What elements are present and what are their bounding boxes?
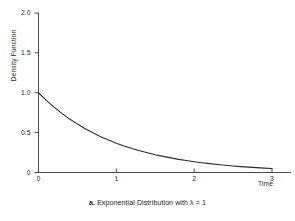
y-axis-tick-label: 2.0 [9, 9, 31, 16]
y-axis-tick-label: 1.5 [9, 49, 31, 56]
figure-caption-text: Exponential Distribution with λ = 1 [97, 199, 206, 206]
x-axis-tick-label: 2 [187, 175, 201, 182]
y-axis-tick-label: 0 [9, 169, 31, 176]
figure-caption-marker: a. [89, 199, 95, 206]
chart-plot-area: Density Function Time 00.51.01.52.0 0123 [0, 0, 295, 196]
x-axis-tick-label: 1 [109, 175, 123, 182]
figure-exponential-distribution: Density Function Time 00.51.01.52.0 0123… [0, 0, 295, 221]
x-axis-tick-label: 3 [265, 175, 279, 182]
chart-svg [0, 0, 295, 196]
x-axis-tick-label: 0 [32, 175, 46, 182]
y-axis-tick-label: 1.0 [9, 89, 31, 96]
figure-caption: a. Exponential Distribution with λ = 1 [0, 199, 295, 206]
y-axis-tick-label: 0.5 [9, 129, 31, 136]
